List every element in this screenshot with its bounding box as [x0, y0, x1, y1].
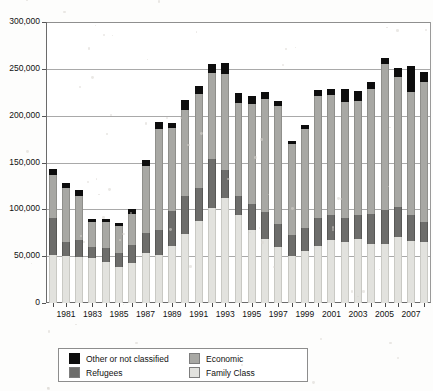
bar-1992 [208, 64, 216, 303]
x-axis-tick [212, 303, 213, 307]
bar-2005 [381, 58, 389, 303]
scan-speckle [268, 194, 269, 195]
x-axis-label-1999: 1999 [295, 309, 314, 319]
scan-speckle [47, 387, 50, 390]
scan-speckle [227, 178, 229, 180]
bar-segment-economic [235, 103, 243, 196]
bar-segment-refugees [102, 248, 110, 263]
bar-segment-family-class [248, 230, 256, 303]
scan-speckle [254, 156, 256, 158]
x-axis-tick [411, 303, 412, 307]
bar-1984 [102, 219, 110, 303]
bar-segment-refugees [208, 159, 216, 208]
bar-segment-refugees [407, 215, 415, 241]
x-axis-tick [172, 303, 173, 307]
scan-speckle [135, 342, 138, 345]
scan-speckle [147, 59, 148, 60]
bar-segment-other-or-not-classified [248, 96, 256, 104]
bar-segment-other-or-not-classified [354, 91, 362, 101]
bar-segment-refugees [142, 233, 150, 253]
bar-segment-economic [381, 64, 389, 211]
bar-segment-refugees [274, 224, 282, 246]
scan-speckle [87, 181, 89, 183]
bar-segment-family-class [208, 208, 216, 303]
scan-speckle [196, 31, 198, 33]
x-axis-tick [252, 303, 253, 307]
bar-segment-other-or-not-classified [261, 92, 269, 99]
x-axis-tick [159, 303, 160, 307]
bar-segment-family-class [128, 263, 136, 303]
scan-speckle [189, 265, 191, 267]
bar-segment-family-class [341, 242, 349, 303]
scan-speckle [63, 11, 66, 14]
bar-segment-refugees [420, 222, 428, 242]
y-axis-tick-label: 0 [0, 297, 40, 307]
bar-segment-refugees [288, 235, 296, 256]
x-axis-tick [146, 303, 147, 307]
scan-speckle [389, 342, 391, 344]
scan-speckle [26, 150, 29, 153]
x-axis-label-1991: 1991 [189, 309, 208, 319]
legend-item-other: Other or not classified [69, 353, 169, 364]
bar-segment-family-class [142, 253, 150, 303]
x-axis-tick [305, 303, 306, 307]
immigration-stacked-bar-chart: 050,000100,000150,000200,000250,000300,0… [0, 0, 433, 391]
bar-segment-refugees [49, 218, 57, 255]
bar-2004 [367, 82, 375, 303]
scan-speckle [312, 381, 315, 384]
bar-segment-refugees [301, 228, 309, 251]
x-axis-tick [119, 303, 120, 307]
legend-swatch-economic-icon [189, 353, 200, 364]
bar-segment-refugees [341, 218, 349, 242]
bar-segment-economic [181, 110, 189, 197]
bar-2000 [314, 90, 322, 303]
y-axis-tick-label: 150,000 [0, 157, 40, 167]
bar-segment-economic [274, 106, 282, 224]
bar-segment-family-class [288, 256, 296, 303]
bar-segment-family-class [274, 247, 282, 303]
bar-segment-economic [75, 196, 83, 240]
bar-segment-refugees [381, 210, 389, 243]
x-axis-tick [265, 303, 266, 307]
x-axis-tick [331, 303, 332, 307]
bar-segment-other-or-not-classified [195, 86, 203, 94]
bar-segment-other-or-not-classified [367, 82, 375, 89]
bar-segment-economic [195, 94, 203, 188]
bar-segment-family-class [181, 234, 189, 303]
scan-speckle [337, 197, 340, 200]
scan-speckle [91, 76, 94, 79]
bar-1987 [142, 160, 150, 303]
x-axis-tick [106, 303, 107, 307]
bar-segment-economic [420, 82, 428, 222]
legend-item-refugees: Refugees [69, 367, 122, 378]
legend-label-refugees: Refugees [86, 368, 122, 378]
bar-segment-family-class [420, 242, 428, 303]
scan-speckle [291, 207, 294, 210]
bar-segment-other-or-not-classified [235, 93, 243, 103]
x-axis-label-2001: 2001 [322, 309, 341, 319]
bar-segment-economic [248, 104, 256, 204]
scan-speckle [260, 138, 263, 141]
scan-speckle [123, 304, 124, 305]
x-axis-tick [132, 303, 133, 307]
bar-segment-family-class [314, 246, 322, 303]
x-axis-tick [398, 303, 399, 307]
scan-speckle [396, 29, 399, 32]
bar-segment-refugees [128, 245, 136, 263]
bar-segment-family-class [115, 267, 123, 303]
bar-1996 [261, 92, 269, 303]
bar-2008 [420, 72, 428, 303]
bar-2001 [327, 89, 335, 303]
bar-segment-family-class [88, 258, 96, 303]
bar-segment-other-or-not-classified [208, 64, 216, 72]
scan-speckle [31, 263, 32, 264]
x-axis-tick [358, 303, 359, 307]
legend-label-other: Other or not classified [86, 354, 169, 364]
bar-segment-family-class [75, 257, 83, 303]
bar-segment-family-class [221, 198, 229, 303]
bar-2003 [354, 91, 362, 303]
bar-segment-family-class [394, 237, 402, 303]
x-axis-tick [278, 303, 279, 307]
bar-1989 [168, 123, 176, 303]
scan-speckle [119, 239, 121, 241]
